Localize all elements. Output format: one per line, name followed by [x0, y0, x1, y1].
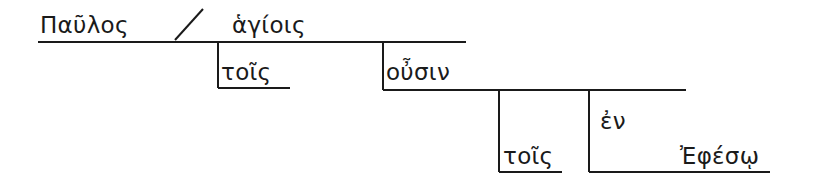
word-participle: οὖσιν — [386, 61, 450, 84]
slash-divider — [175, 9, 203, 40]
word-preposition: ἐν — [600, 110, 626, 133]
word-article-2: τοῖς — [503, 145, 553, 168]
word-appositive: ἁγίοις — [232, 14, 306, 37]
word-subject: Παῦλος — [40, 14, 129, 37]
sentence-diagram: Παῦλος ἁγίοις τοῖς οὖσιν τοῖς ἐν Ἐφέσῳ — [0, 0, 825, 185]
word-article-1: τοῖς — [221, 61, 271, 84]
word-object-of-preposition: Ἐφέσῳ — [680, 145, 759, 168]
